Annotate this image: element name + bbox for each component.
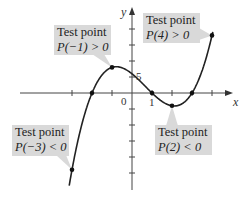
callout-inequality: P(2) < 0 — [158, 140, 209, 155]
x-axis-label: x — [233, 95, 238, 110]
y-axis-label: y — [121, 5, 126, 20]
x-tick-label-1: 1 — [149, 96, 155, 108]
callout-p-2: Test point P(2) < 0 — [155, 125, 212, 155]
origin-label: 0 — [121, 95, 127, 107]
callout-title: Test point — [57, 25, 108, 40]
callout-p-minus-1: Test point P(−1) > 0 — [54, 25, 111, 55]
callout-inequality: P(−3) < 0 — [15, 140, 66, 155]
callout-title: Test point — [15, 125, 66, 140]
callout-inequality: P(4) > 0 — [146, 28, 197, 43]
y-tick-label-5: 5 — [136, 70, 142, 82]
callout-inequality: P(−1) > 0 — [57, 40, 108, 55]
callout-title: Test point — [158, 125, 209, 140]
callout-p-minus-3: Test point P(−3) < 0 — [12, 125, 69, 156]
callout-title: Test point — [146, 13, 197, 28]
callout-p-4: Test point P(4) > 0 — [143, 13, 200, 43]
